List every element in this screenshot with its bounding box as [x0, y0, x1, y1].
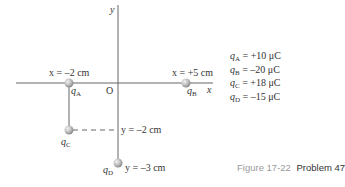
charge-c-sphere	[65, 126, 74, 135]
charge-values-list: qA = +10 μC qB = –20 μC qC = +18 μC qD =…	[230, 51, 281, 105]
qd-label: qD	[103, 165, 113, 178]
qa-label: qA	[71, 86, 81, 99]
problem-number: Problem 47	[297, 162, 345, 173]
y-axis-label: y	[110, 5, 114, 15]
qd-position-label: y = –3 cm	[125, 163, 165, 173]
charge-d-sphere	[114, 159, 123, 168]
charge-a-value: qA = +10 μC	[230, 51, 281, 65]
qc-position-label: y = –2 cm	[121, 125, 161, 135]
charge-d-value: qD = –15 μC	[230, 92, 281, 106]
charge-c-value: qC = +18 μC	[230, 78, 281, 92]
x-axis-label: x	[207, 85, 211, 95]
figure-number: Figure 17-22	[237, 162, 291, 173]
qa-position-label: x = –2 cm	[49, 68, 89, 78]
qb-label: qB	[187, 86, 197, 99]
qc-label: qC	[61, 137, 71, 150]
qb-position-label: x = +5 cm	[172, 68, 213, 78]
figure-caption: Figure 17-22 Problem 47	[237, 162, 345, 173]
origin-label: O	[106, 86, 113, 96]
charge-b-value: qB = –20 μC	[230, 65, 281, 79]
